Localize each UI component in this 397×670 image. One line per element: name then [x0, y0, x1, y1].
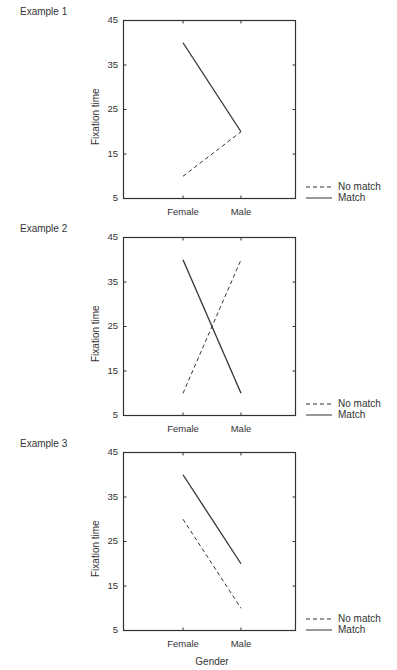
x-tick-label: Female — [158, 423, 208, 434]
series-line-match — [183, 43, 241, 132]
panel-title: Example 3 — [20, 438, 67, 449]
series-line-no-match — [183, 519, 241, 608]
legend-item-no-match: No match — [306, 181, 381, 192]
y-tick-label: 5 — [98, 192, 118, 203]
series-line-no-match — [183, 132, 241, 177]
y-tick-label: 45 — [98, 446, 118, 457]
y-axis-label: Fixation time — [90, 305, 101, 362]
x-tick-label: Male — [216, 423, 266, 434]
x-tick-label: Female — [158, 638, 208, 649]
solid-line-swatch-icon — [306, 413, 332, 417]
y-tick-label: 35 — [98, 491, 118, 502]
panel-title: Example 2 — [20, 223, 67, 234]
y-tick-label: 25 — [98, 535, 118, 546]
y-tick-label: 15 — [98, 148, 118, 159]
legend: No match Match — [306, 398, 381, 420]
x-axis-label: Gender — [182, 656, 242, 667]
legend-item-match: Match — [306, 192, 381, 203]
x-tick-label: Male — [216, 638, 266, 649]
y-tick-label: 35 — [98, 59, 118, 70]
legend: No match Match — [306, 181, 381, 203]
legend-label: No match — [338, 398, 381, 409]
y-axis-label: Fixation time — [90, 520, 101, 577]
legend-label: Match — [338, 409, 365, 420]
axes-frame — [124, 21, 296, 199]
y-tick-label: 45 — [98, 231, 118, 242]
panel-title: Example 1 — [20, 6, 67, 17]
y-tick-label: 15 — [98, 580, 118, 591]
legend-item-no-match: No match — [306, 613, 381, 624]
legend-item-no-match: No match — [306, 398, 381, 409]
y-tick-label: 25 — [98, 103, 118, 114]
axes-frame — [124, 453, 296, 631]
solid-line-swatch-icon — [306, 628, 332, 632]
y-tick-label: 25 — [98, 320, 118, 331]
x-tick-label: Female — [158, 206, 208, 217]
plot-area — [123, 20, 297, 200]
legend: No match Match — [306, 613, 381, 635]
legend-item-match: Match — [306, 624, 381, 635]
legend-label: No match — [338, 613, 381, 624]
y-tick-label: 5 — [98, 409, 118, 420]
y-tick-label: 45 — [98, 14, 118, 25]
legend-label: Match — [338, 192, 365, 203]
plot-area — [123, 452, 297, 632]
y-tick-label: 35 — [98, 276, 118, 287]
dashed-line-swatch-icon — [306, 185, 332, 189]
y-axis-label: Fixation time — [90, 88, 101, 145]
legend-item-match: Match — [306, 409, 381, 420]
dashed-line-swatch-icon — [306, 402, 332, 406]
plot-area — [123, 237, 297, 417]
series-line-match — [183, 475, 241, 564]
dashed-line-swatch-icon — [306, 617, 332, 621]
legend-label: Match — [338, 624, 365, 635]
axes-frame — [124, 238, 296, 416]
x-tick-label: Male — [216, 206, 266, 217]
y-tick-label: 5 — [98, 624, 118, 635]
legend-label: No match — [338, 181, 381, 192]
solid-line-swatch-icon — [306, 196, 332, 200]
y-tick-label: 15 — [98, 365, 118, 376]
